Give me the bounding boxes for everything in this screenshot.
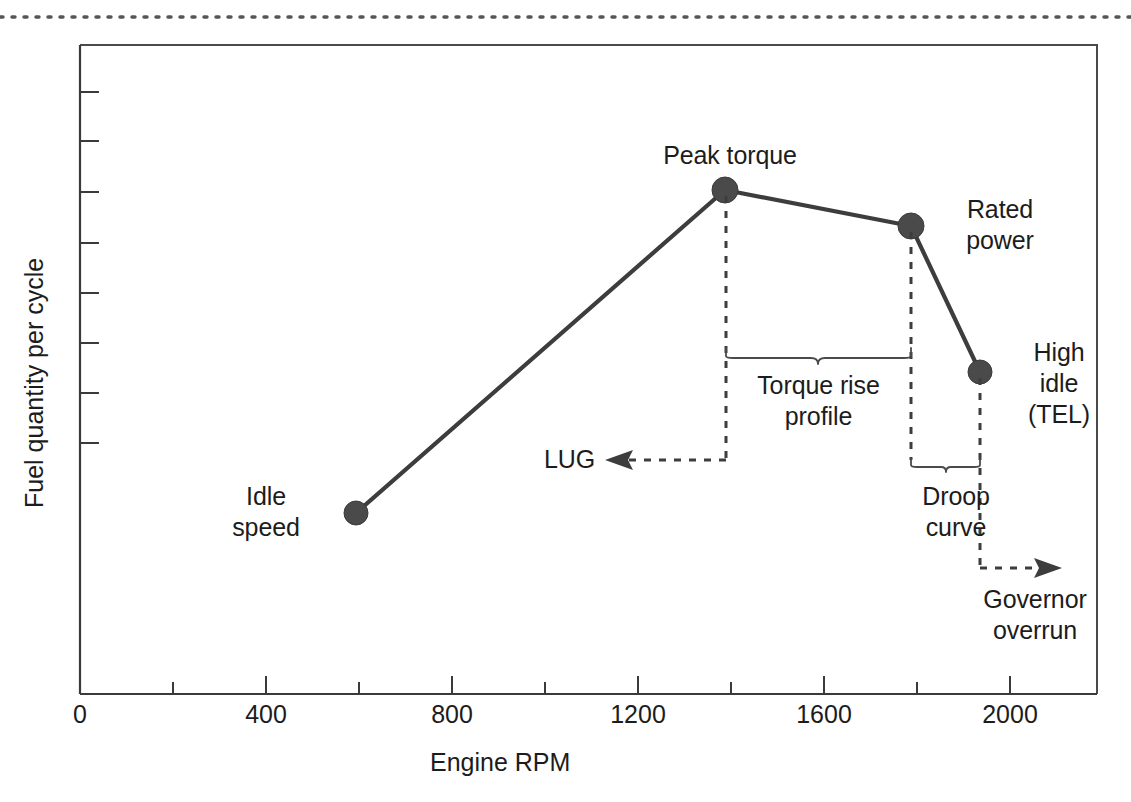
figure-canvas: 0 400 800 1200 1600 2000 Engine RPM Fuel… — [0, 0, 1131, 802]
x-tick-label-400: 400 — [221, 700, 311, 729]
annotation-high-idle: High idle (TEL) — [995, 337, 1123, 430]
x-axis-title: Engine RPM — [430, 748, 570, 777]
annotation-lug: LUG — [440, 444, 595, 475]
x-tick-label-800: 800 — [407, 700, 497, 729]
annotation-idle-speed: Idle speed — [196, 481, 336, 543]
brace-torque-rise-profile — [726, 348, 911, 364]
marker-idle-speed — [344, 501, 368, 525]
governor-overrun-arrowhead-icon — [1034, 558, 1062, 578]
annotation-torque-rise-profile: Torque rise profile — [716, 370, 921, 432]
annotation-droop-curve: Droop curve — [886, 481, 1026, 543]
y-axis-title: Fuel quantity per cycle — [20, 258, 49, 508]
x-tick-label-0: 0 — [35, 700, 125, 729]
x-tick-label-2000: 2000 — [965, 700, 1055, 729]
annotation-peak-torque: Peak torque — [625, 140, 835, 171]
lug-arrowhead-icon — [605, 450, 633, 470]
y-axis-ticks — [80, 92, 99, 443]
annotation-rated-power: Rated power — [920, 194, 1080, 256]
engine-fuel-curve-chart — [0, 0, 1131, 802]
x-tick-label-1200: 1200 — [593, 700, 683, 729]
annotation-governor-overrun: Governor overrun — [940, 584, 1130, 646]
brace-droop-curve — [911, 459, 980, 472]
x-axis-ticks — [80, 676, 1010, 694]
x-tick-label-1600: 1600 — [779, 700, 869, 729]
